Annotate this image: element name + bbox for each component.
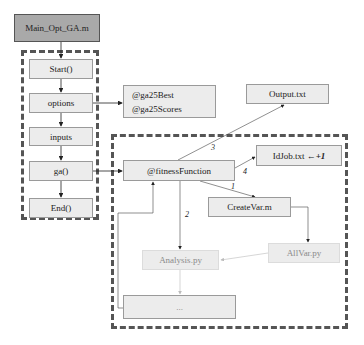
start-label: Start()	[50, 64, 73, 74]
ga-node: ga()	[29, 161, 93, 181]
inputs-label: inputs	[50, 132, 72, 142]
edge-label-4: 4	[243, 167, 247, 176]
idjob-node: IdJob.txt ← +1	[256, 145, 342, 166]
idjob-label: IdJob.txt ←	[273, 151, 316, 161]
createvar-label: CreateVar.m	[227, 202, 272, 212]
edge-label-3: 3	[211, 143, 215, 152]
fitness-function-node: @fitnessFunction	[123, 160, 235, 181]
end-node: End()	[29, 198, 93, 218]
allvar-node: AllVar.py	[268, 243, 340, 263]
end-label: End()	[51, 203, 72, 213]
ga25best-label: @ga25Best	[132, 88, 174, 102]
options-node: options	[29, 93, 93, 113]
ga25scores-label: @ga25Scores	[132, 102, 182, 116]
edge-label-2: 2	[185, 210, 189, 219]
main-opt-ga-node: Main_Opt_GA.m	[14, 14, 100, 42]
ellipsis-label: ...	[176, 302, 183, 312]
analysis-label: Analysis.py	[159, 255, 202, 265]
allvar-label: AllVar.py	[287, 248, 322, 258]
options-label: options	[48, 98, 75, 108]
ga-label: ga()	[54, 166, 69, 176]
edge-label-1: 1	[231, 182, 235, 191]
createvar-node: CreateVar.m	[208, 197, 291, 217]
ga25-outputs-node: @ga25Best @ga25Scores	[123, 85, 216, 118]
fitness-function-label: @fitnessFunction	[147, 166, 211, 176]
start-node: Start()	[29, 59, 93, 79]
idjob-increment: +1	[316, 151, 326, 161]
output-txt-node: Output.txt	[246, 84, 329, 104]
ellipsis-node: ...	[123, 295, 236, 319]
output-txt-label: Output.txt	[269, 89, 306, 99]
main-opt-ga-label: Main_Opt_GA.m	[25, 23, 89, 33]
inputs-node: inputs	[29, 127, 93, 146]
analysis-node: Analysis.py	[142, 250, 219, 270]
